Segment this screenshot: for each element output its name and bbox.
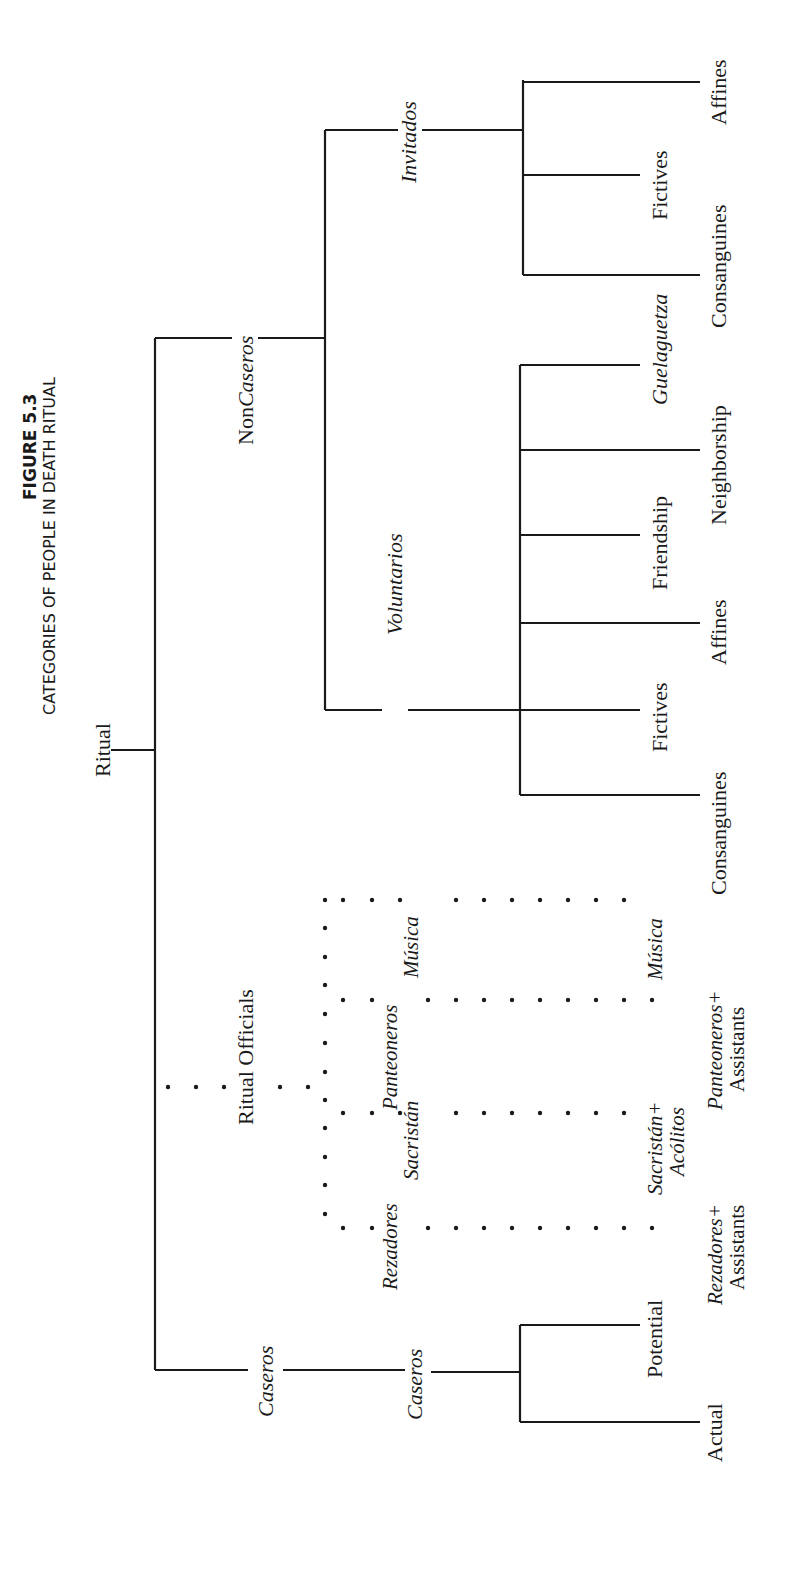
- leaf-musica: Música: [643, 918, 667, 981]
- role-musica: Música: [399, 916, 423, 979]
- voluntarios-leaf-fictives: Fictives: [647, 682, 672, 752]
- voluntarios-leaf-consanguines: Consanguines: [706, 772, 731, 895]
- invitados-label: Invitados: [396, 101, 421, 184]
- voluntarios-leaf-affines: Affines: [706, 599, 731, 665]
- caseros-sub-label: Caseros: [402, 1349, 427, 1420]
- noncaseros-label: NonCaseros: [233, 336, 258, 445]
- leaf-rezadores-line2: Assistants: [725, 1205, 749, 1290]
- voluntarios-leaf-friendship: Friendship: [647, 496, 672, 590]
- leaf-sacristan-line1: Sacristán+: [643, 1101, 667, 1195]
- role-panteoneros: Panteoneros: [378, 1005, 402, 1111]
- invitados-leaf-affines: Affines: [706, 59, 731, 125]
- role-sacristan: Sacristán: [399, 1101, 423, 1180]
- leaf-panteoneros-line2: Assistants: [725, 1007, 749, 1092]
- caseros-leaf-lines: [520, 1325, 700, 1422]
- voluntarios-label: Voluntarios: [382, 534, 407, 635]
- caseros-leaf-actual: Actual: [702, 1403, 727, 1462]
- leaf-panteoneros-line1: Panteoneros+: [703, 990, 727, 1111]
- voluntarios-leaf-neighborship: Neighborship: [706, 405, 731, 525]
- voluntarios-leaf-guelaguetza: Guelaguetza: [647, 294, 672, 405]
- caseros-connector: [155, 1370, 520, 1372]
- figure-number: FIGURE 5.3: [20, 394, 40, 500]
- leaf-rezadores-line1: Rezadores+: [703, 1204, 727, 1306]
- figure-title: CATEGORIES OF PEOPLE IN DEATH RITUAL: [40, 377, 59, 715]
- caseros-label: Caseros: [253, 1346, 278, 1417]
- ritual-officials-label: Ritual Officials: [233, 989, 258, 1125]
- voluntarios-leaf-lines: [520, 365, 700, 795]
- invitados-leaf-consanguines: Consanguines: [706, 205, 731, 328]
- figure-5-3-diagram: FIGURE 5.3 CATEGORIES OF PEOPLE IN DEATH…: [0, 0, 799, 1586]
- caseros-leaf-potential: Potential: [642, 1300, 667, 1378]
- role-rezadores: Rezadores: [378, 1203, 402, 1291]
- invitados-leaf-fictives: Fictives: [647, 150, 672, 220]
- leaf-sacristan-line2: Acólitos: [665, 1107, 689, 1178]
- invitados-leaf-lines: [523, 82, 700, 275]
